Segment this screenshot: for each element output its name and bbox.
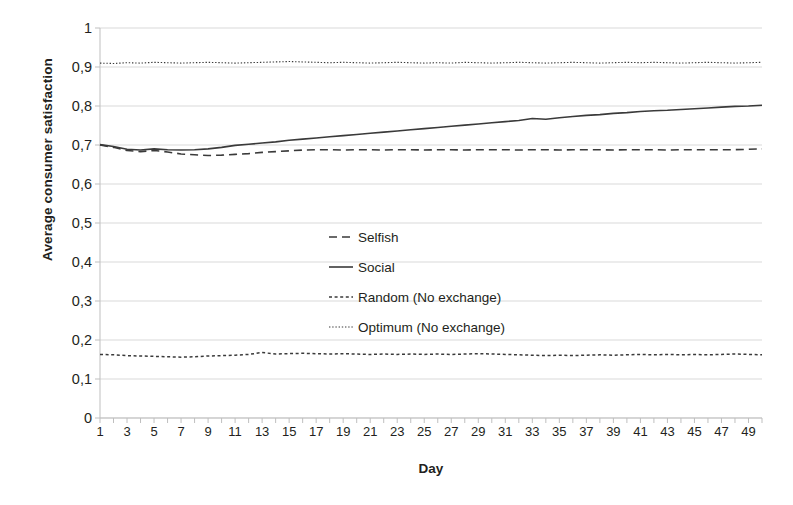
x-axis-tick-label: 43 [652, 424, 682, 439]
x-axis-tick-label: 47 [706, 424, 736, 439]
x-axis-tick-label: 31 [490, 424, 520, 439]
chart-container: Average consumer satisfaction 00,10,20,3… [0, 0, 793, 505]
x-axis-tick-label: 5 [139, 424, 169, 439]
legend-item-label: Social [358, 260, 395, 275]
x-axis-tick-label: 11 [220, 424, 250, 439]
legend-line-sample-icon [328, 321, 354, 333]
x-axis-tick-label: 1 [85, 424, 115, 439]
legend-item-label: Selfish [358, 230, 399, 245]
x-axis-tick-label: 7 [166, 424, 196, 439]
legend-line-sample-icon [328, 291, 354, 303]
x-axis-tick-label: 21 [355, 424, 385, 439]
legend-item-social[interactable]: Social [328, 252, 588, 282]
x-axis-tick-label: 15 [274, 424, 304, 439]
x-axis-title: Day [100, 461, 762, 476]
chart-legend: SelfishSocialRandom (No exchange)Optimum… [328, 222, 588, 342]
x-axis-tick-label: 17 [301, 424, 331, 439]
legend-item-optimum-no-exchange[interactable]: Optimum (No exchange) [328, 312, 588, 342]
x-axis-tick-label: 13 [247, 424, 277, 439]
legend-line-sample-icon [328, 231, 354, 243]
x-axis-tick-label: 49 [733, 424, 763, 439]
series-line-optimum-no-exchange [100, 62, 762, 64]
x-axis-tick-label: 19 [328, 424, 358, 439]
x-axis-tick-label: 9 [193, 424, 223, 439]
legend-item-random-no-exchange[interactable]: Random (No exchange) [328, 282, 588, 312]
x-axis-tick-label: 45 [679, 424, 709, 439]
legend-item-label: Random (No exchange) [358, 290, 501, 305]
x-axis-tick-label: 33 [517, 424, 547, 439]
x-axis-tick-label: 27 [436, 424, 466, 439]
series-line-random-no-exchange [100, 352, 762, 357]
series-line-selfish [100, 145, 762, 156]
series-line-social [100, 105, 762, 150]
x-axis-tick-label: 39 [598, 424, 628, 439]
x-axis-tick-label: 3 [112, 424, 142, 439]
x-axis-tick-label: 41 [625, 424, 655, 439]
legend-item-label: Optimum (No exchange) [358, 320, 505, 335]
legend-line-sample-icon [328, 261, 354, 273]
x-axis-tick-label: 25 [409, 424, 439, 439]
x-axis-tick-label: 35 [544, 424, 574, 439]
x-axis-tick-label: 23 [382, 424, 412, 439]
x-axis-tick-label: 37 [571, 424, 601, 439]
legend-item-selfish[interactable]: Selfish [328, 222, 588, 252]
x-axis-tick-label: 29 [463, 424, 493, 439]
